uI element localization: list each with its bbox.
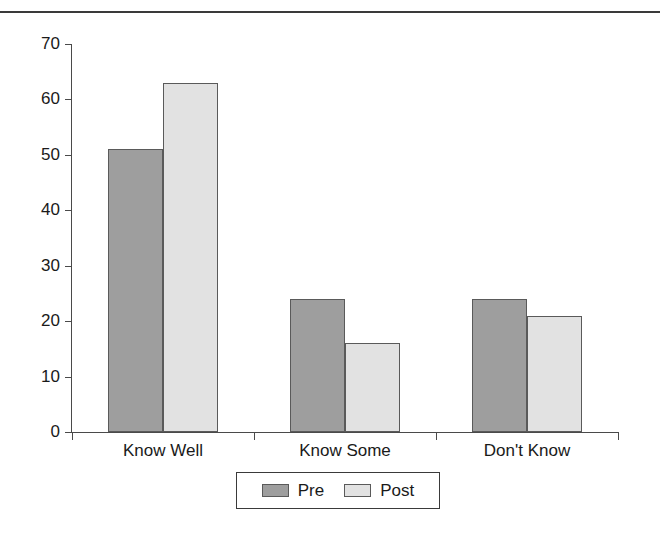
header-divider-rule — [0, 11, 660, 13]
x-axis-tick — [72, 432, 73, 440]
x-axis-tick — [618, 432, 619, 440]
y-axis-tick-label: 0 — [14, 423, 60, 440]
y-axis-tick-label: 50 — [14, 146, 60, 163]
y-axis-tick-label: 30 — [14, 257, 60, 274]
x-axis-label-2: Don't Know — [436, 441, 618, 461]
x-axis-line — [71, 432, 618, 433]
y-axis-tick-label: 40 — [14, 201, 60, 218]
chart-page: 010203040506070 Know WellKnow SomeDon't … — [0, 0, 660, 533]
bar-post-0 — [163, 83, 218, 432]
bars-layer — [72, 44, 618, 432]
y-axis-labels: 010203040506070 — [0, 0, 60, 533]
x-axis-tick — [254, 432, 255, 440]
x-axis-label-1: Know Some — [254, 441, 436, 461]
legend-label-pre: Pre — [298, 482, 324, 499]
y-axis-tick-label: 10 — [14, 368, 60, 385]
legend-swatch-post-icon — [344, 484, 371, 497]
legend-swatch-pre-icon — [262, 484, 289, 497]
legend-label-post: Post — [380, 482, 414, 499]
y-axis-tick-label: 60 — [14, 90, 60, 107]
y-axis-tick-label: 70 — [14, 35, 60, 52]
x-axis-tick — [436, 432, 437, 440]
bar-pre-2 — [472, 299, 527, 432]
x-axis-label-0: Know Well — [72, 441, 254, 461]
chart-legend: PrePost — [236, 472, 440, 509]
bar-pre-0 — [108, 149, 163, 432]
y-axis-tick-label: 20 — [14, 312, 60, 329]
legend-entry-pre[interactable]: Pre — [262, 482, 324, 499]
cut-off-header-text — [0, 0, 660, 10]
legend-entry-post[interactable]: Post — [344, 482, 414, 499]
bar-pre-1 — [290, 299, 345, 432]
bar-post-2 — [527, 316, 582, 432]
bar-post-1 — [345, 343, 400, 432]
